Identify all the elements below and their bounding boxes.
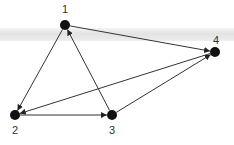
nodes: 1234 xyxy=(10,3,220,136)
node-label-1: 1 xyxy=(62,3,68,15)
node-label-3: 3 xyxy=(109,124,115,136)
node-4 xyxy=(210,47,220,57)
edge-1-to-2 xyxy=(17,29,62,110)
node-3 xyxy=(107,110,117,120)
node-label-2: 2 xyxy=(12,124,18,136)
node-2 xyxy=(10,110,20,120)
edge-1-to-4 xyxy=(70,26,210,51)
node-1 xyxy=(60,20,70,30)
edge-3-to-1 xyxy=(67,29,109,110)
edge-4-to-2 xyxy=(20,54,210,114)
directed-graph: 1234 xyxy=(0,0,234,145)
node-label-4: 4 xyxy=(213,34,219,46)
edges xyxy=(17,26,210,115)
edge-3-to-4 xyxy=(116,55,210,113)
